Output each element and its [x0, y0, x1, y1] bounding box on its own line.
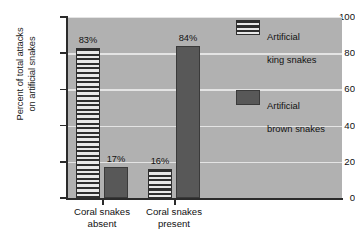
x-category-label-line1: Coral snakes: [114, 206, 234, 218]
legend-item-king-snakes[interactable]: Artificial king snakes: [236, 19, 342, 77]
x-category-label: Coral snakespresent: [114, 206, 234, 230]
x-tick-mark: [102, 200, 104, 205]
x-tick-mark: [174, 200, 176, 205]
bar-king-snakes[interactable]: [148, 169, 172, 198]
legend-label-brown-line2: brown snakes: [267, 123, 325, 135]
bar-value-label: 84%: [158, 33, 218, 43]
bar-value-label: 16%: [130, 156, 190, 166]
x-axis-line: [66, 198, 343, 200]
bar-brown-snakes[interactable]: [104, 167, 128, 198]
y-axis-title: Percent of total attacks on artificial s…: [8, 0, 44, 159]
legend-item-brown-snakes[interactable]: Artificial brown snakes: [236, 89, 342, 147]
y-axis-title-line2: on artificial snakes: [26, 28, 38, 121]
bar-brown-snakes[interactable]: [176, 46, 200, 198]
legend-label-king-line1: Artificial: [267, 31, 317, 43]
legend-label-king-line2: king snakes: [267, 54, 317, 66]
x-category-label-line2: present: [114, 218, 234, 230]
bar-value-label: 83%: [58, 35, 118, 45]
legend: Artificial king snakes Artificial brown …: [236, 19, 342, 158]
y-axis-title-line1: Percent of total attacks: [14, 28, 26, 121]
bar-king-snakes[interactable]: [76, 48, 100, 198]
legend-label-brown-line1: Artificial: [267, 100, 325, 112]
bar-chart-figure: Percent of total attacks on artificial s…: [0, 0, 355, 241]
legend-swatch-striped-icon: [236, 20, 260, 35]
legend-swatch-solid-icon: [236, 90, 260, 105]
